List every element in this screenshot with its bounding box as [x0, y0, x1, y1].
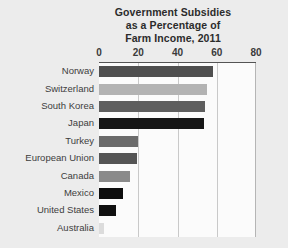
x-tick-label-60: 60	[211, 47, 222, 58]
bar-row	[99, 223, 256, 234]
category-label-australia: Australia	[57, 222, 94, 233]
bar-australia	[99, 223, 104, 234]
bar-row	[99, 136, 256, 147]
bar-row	[99, 171, 256, 182]
bar-united-states	[99, 205, 116, 216]
x-tick-label-80: 80	[250, 47, 261, 58]
chart-title-line-3: Farm Income, 2011	[80, 32, 266, 45]
category-label-norway: Norway	[62, 65, 94, 76]
bar-japan	[99, 118, 204, 129]
bar-south-korea	[99, 101, 205, 112]
bar-row	[99, 153, 256, 164]
category-label-canada: Canada	[61, 170, 94, 181]
chart-figure: Government Subsidies as a Percentage of …	[0, 0, 288, 248]
category-label-south-korea: South Korea	[41, 100, 94, 111]
x-tick-label-40: 40	[172, 47, 183, 58]
bar-turkey	[99, 136, 138, 147]
bar-canada	[99, 171, 130, 182]
category-label-european-union: European Union	[25, 152, 94, 163]
category-label-switzerland: Switzerland	[45, 83, 94, 94]
bar-row	[99, 205, 256, 216]
bar-row	[99, 118, 256, 129]
bar-row	[99, 84, 256, 95]
bar-norway	[99, 66, 213, 77]
category-label-united-states: United States	[37, 204, 94, 215]
bar-switzerland	[99, 84, 207, 95]
category-label-mexico: Mexico	[64, 187, 94, 198]
chart-title: Government Subsidies as a Percentage of …	[80, 6, 266, 46]
chart-title-line-2: as a Percentage of	[80, 19, 266, 32]
plot-area	[99, 62, 256, 237]
category-label-turkey: Turkey	[65, 135, 94, 146]
bar-row	[99, 188, 256, 199]
chart-title-line-1: Government Subsidies	[80, 6, 266, 19]
bar-european-union	[99, 153, 137, 164]
x-tick-label-0: 0	[96, 47, 102, 58]
x-tick-label-20: 20	[133, 47, 144, 58]
bar-row	[99, 101, 256, 112]
bar-row	[99, 66, 256, 77]
category-label-japan: Japan	[68, 117, 94, 128]
x-axis-tick-labels: 020406080	[0, 47, 288, 61]
bar-mexico	[99, 188, 123, 199]
